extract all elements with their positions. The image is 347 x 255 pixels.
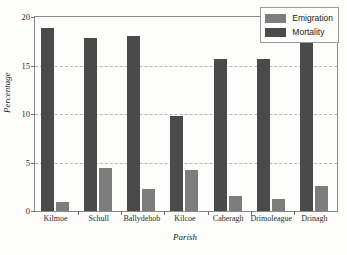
- y-axis-tick-label: 10: [22, 109, 31, 119]
- bar-group: [251, 17, 294, 211]
- x-axis-title: Parish: [34, 232, 336, 242]
- bar-group: [78, 17, 121, 211]
- y-axis-tick-label: 20: [22, 12, 31, 22]
- bar-mortality: [257, 59, 270, 211]
- bar-mortality: [214, 59, 227, 211]
- x-axis-tick-label: Kilmoe: [44, 214, 68, 223]
- bar-emigration: [272, 199, 285, 211]
- y-axis-tick-label: 0: [26, 206, 30, 216]
- bar-mortality: [41, 28, 54, 211]
- y-axis-tick-label: 15: [22, 61, 31, 71]
- legend-item-mortality: Mortality: [265, 25, 333, 39]
- bar-group: [164, 17, 207, 211]
- bar-mortality: [170, 116, 183, 211]
- x-axis-tick-label: Drimoleague: [250, 214, 292, 223]
- bar-emigration: [315, 186, 328, 211]
- bar-mortality: [84, 38, 97, 211]
- x-axis-tick-label: Ballydehob: [123, 214, 160, 223]
- y-axis-tick-label: 5: [26, 158, 30, 168]
- bar-emigration: [56, 202, 69, 211]
- x-axis-tick-label: Kilcoe: [174, 214, 195, 223]
- bar-group: [294, 17, 337, 211]
- y-axis-title: Percentage: [2, 72, 12, 113]
- bar-emigration: [142, 189, 155, 211]
- bar-mortality: [127, 36, 140, 211]
- x-axis-tick-label: Drinagh: [301, 214, 327, 223]
- legend-label-mortality: Mortality: [292, 27, 324, 37]
- legend-swatch-emigration: [265, 14, 286, 23]
- chart-legend: Emigration Mortality: [260, 7, 339, 43]
- legend-label-emigration: Emigration: [292, 13, 333, 23]
- plot-area: 05101520: [34, 16, 338, 212]
- x-axis-tick-label: Caberagh: [213, 214, 244, 223]
- bar-mortality: [300, 32, 313, 211]
- bar-emigration: [185, 170, 198, 211]
- bar-emigration: [229, 196, 242, 211]
- legend-swatch-mortality: [265, 28, 286, 37]
- x-axis-tick-labels: KilmoeSchullBallydehobKilcoeCaberaghDrim…: [34, 214, 336, 228]
- bar-group: [208, 17, 251, 211]
- y-axis-tick: [31, 211, 35, 212]
- bar-group: [35, 17, 78, 211]
- bar-group: [121, 17, 164, 211]
- bar-emigration: [99, 168, 112, 211]
- x-axis-tick-label: Schull: [88, 214, 108, 223]
- legend-item-emigration: Emigration: [265, 11, 333, 25]
- chart-figure: 05101520 KilmoeSchullBallydehobKilcoeCab…: [0, 0, 347, 255]
